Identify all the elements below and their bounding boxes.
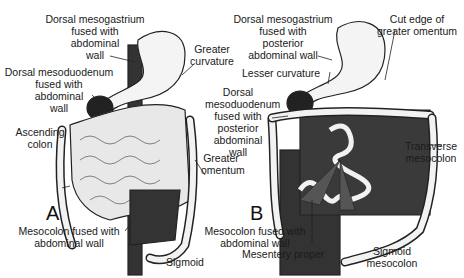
text-line: Transverse bbox=[400, 140, 462, 152]
text-line: abdominal bbox=[4, 90, 114, 102]
text-line: fused with bbox=[4, 78, 114, 90]
text-line: mesoduodenum bbox=[205, 98, 271, 110]
text-line: abdominal bbox=[45, 37, 145, 49]
text-line: omentum bbox=[201, 164, 241, 176]
text-line: abdominal wall bbox=[232, 49, 334, 61]
label-b-cut-edge: Cut edge of greater omentum bbox=[372, 13, 462, 37]
text-line: Cut edge of bbox=[372, 13, 462, 25]
text-line: Sigmoid bbox=[362, 245, 422, 257]
label-b-sigmoid-mesocolon: Sigmoid mesocolon bbox=[362, 245, 422, 269]
label-a-dorsal-mesoduodenum: Dorsal mesoduodenum fused with abdominal… bbox=[4, 66, 114, 114]
text-line: wall bbox=[205, 146, 271, 158]
label-a-greater-curvature: Greater curvature bbox=[188, 43, 236, 67]
label-b-dorsal-mesogastrium: Dorsal mesogastrium fused with posterior… bbox=[232, 13, 334, 61]
text-line: fused with bbox=[232, 25, 334, 37]
label-b-lesser-curvature: Lesser curvature bbox=[242, 67, 320, 79]
text-line: greater omentum bbox=[372, 25, 462, 37]
label-a-mesocolon-fused: Mesocolon fused with abdominal wall bbox=[14, 225, 124, 249]
text-line: abdominal bbox=[205, 134, 271, 146]
text-line: posterior bbox=[205, 122, 271, 134]
label-b-transverse-mesocolon: Transverse mesocolon bbox=[400, 140, 462, 164]
text-line: wall bbox=[4, 102, 114, 114]
text-line: fused with bbox=[45, 25, 145, 37]
text-line: Greater bbox=[188, 43, 236, 55]
text-line: Dorsal bbox=[205, 86, 271, 98]
text-line: colon bbox=[14, 138, 66, 150]
text-line: posterior bbox=[232, 37, 334, 49]
text-line: mesocolon bbox=[400, 152, 462, 164]
text-line: curvature bbox=[188, 55, 236, 67]
label-b-mesocolon-fused: Mesocolon fused with abdominal wall bbox=[200, 225, 310, 249]
label-a-sigmoid: Sigmoid bbox=[166, 256, 204, 268]
panel-letter-a: A bbox=[46, 202, 59, 225]
label-b-dorsal-mesoduodenum: Dorsal mesoduodenum fused with posterior… bbox=[205, 86, 271, 158]
text-line: Dorsal mesogastrium bbox=[45, 13, 145, 25]
text-line: mesocolon bbox=[362, 257, 422, 269]
text-line: wall bbox=[45, 49, 145, 61]
label-a-ascending-colon: Ascending colon bbox=[14, 126, 66, 150]
text-line: Dorsal mesoduodenum bbox=[4, 66, 114, 78]
text-line: Dorsal mesogastrium bbox=[232, 13, 334, 25]
text-line: abdominal wall bbox=[14, 237, 124, 249]
text-line: Mesocolon fused with bbox=[14, 225, 124, 237]
text-line: Ascending bbox=[14, 126, 66, 138]
label-a-dorsal-mesogastrium: Dorsal mesogastrium fused with abdominal… bbox=[45, 13, 145, 61]
text-line: fused with bbox=[205, 110, 271, 122]
label-b-mesentery-proper: Mesentery proper bbox=[242, 248, 324, 260]
panel-letter-b: B bbox=[250, 202, 263, 225]
text-line: Mesocolon fused with bbox=[200, 225, 310, 237]
